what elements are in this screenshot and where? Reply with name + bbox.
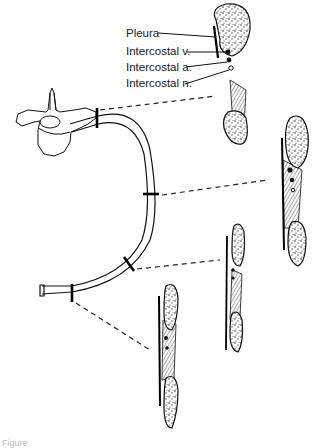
vertebra-illustration (16, 88, 96, 156)
cross-section-3 (226, 224, 245, 352)
cross-section-4 (159, 285, 178, 429)
cross-section-1 (214, 4, 250, 144)
label-intercostal-artery: Intercostal a. (126, 62, 192, 74)
label-intercostal-vein: Intercostal v. (126, 46, 190, 58)
figure-caption: Figure (2, 438, 28, 448)
label-pleura: Pleura (126, 28, 159, 40)
label-intercostal-nerve: Intercostal n. (126, 78, 192, 90)
cross-section-2 (282, 116, 308, 266)
